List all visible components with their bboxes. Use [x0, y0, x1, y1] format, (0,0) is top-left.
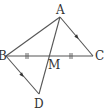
segment-ab [6, 17, 60, 56]
label-c: C [95, 49, 104, 63]
label-b: B [0, 49, 7, 63]
label-m: M [48, 58, 60, 72]
label-d: D [34, 97, 44, 111]
label-a: A [55, 3, 65, 17]
geometry-diagram: A B C M D [0, 0, 107, 112]
